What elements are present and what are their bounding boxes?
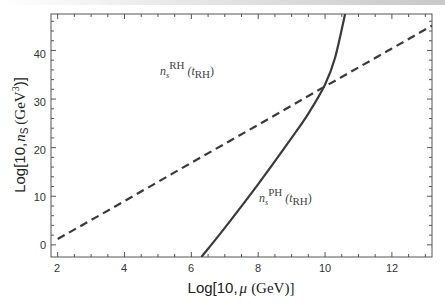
y-tick-label: 30 [34, 96, 46, 108]
series-rh-dashed-line [58, 26, 432, 239]
y-tick-labels: 0 10 20 30 40 [34, 48, 46, 251]
annotation-ph: nsPH(tRH) [259, 186, 312, 207]
x-tick-label: 8 [255, 262, 261, 274]
chart: 2 4 6 8 10 12 0 10 20 30 40 Log[10,μ(GeV… [0, 0, 445, 306]
series-ph-solid-line [201, 14, 345, 257]
y-tick-label: 20 [34, 144, 46, 156]
y-axis-label: Log[10,nS(GeV3)] [10, 77, 30, 193]
x-tick-label: 10 [319, 262, 331, 274]
y-tick-label: 10 [34, 191, 46, 203]
series-lines [58, 14, 432, 257]
y-tick-label: 0 [40, 239, 46, 251]
x-tick-label: 2 [54, 262, 60, 274]
x-tick-label: 4 [121, 262, 127, 274]
annotation-rh: nsRH(tRH) [160, 59, 214, 80]
x-tick-labels: 2 4 6 8 10 12 [54, 262, 398, 274]
x-tick-label: 6 [188, 262, 194, 274]
y-tick-label: 40 [34, 48, 46, 60]
x-axis-label: Log[10,μ(GeV)] [188, 279, 295, 297]
x-tick-label: 12 [386, 262, 398, 274]
